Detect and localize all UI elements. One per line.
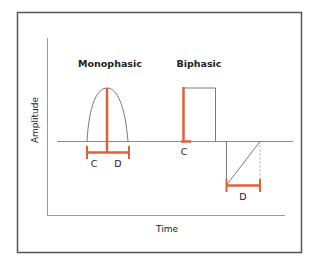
biphasic-label-c: C	[181, 146, 188, 157]
outer-frame	[18, 13, 302, 253]
waveform-diagram: Monophasic Biphasic Amplitude Time C D C…	[0, 0, 317, 259]
monophasic-label-d: D	[114, 158, 121, 169]
biphasic-label-d: D	[239, 191, 246, 202]
monophasic-title: Monophasic	[78, 58, 142, 69]
x-axis-label: Time	[155, 224, 178, 234]
monophasic-label-c: C	[91, 158, 98, 169]
biphasic-title: Biphasic	[176, 58, 221, 69]
y-axis-label: Amplitude	[30, 96, 40, 143]
